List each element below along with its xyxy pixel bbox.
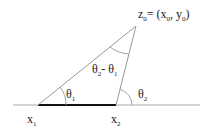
point1-label: x1 bbox=[27, 112, 37, 128]
apex-label: z0= (x0, y0) bbox=[138, 7, 190, 23]
angle1-label: θ1 bbox=[66, 87, 76, 103]
side-x1-z0 bbox=[38, 26, 136, 105]
side-x2-z0 bbox=[116, 26, 136, 105]
angle-arc-theta2 bbox=[120, 90, 132, 106]
point2-label: x2 bbox=[111, 112, 121, 128]
apex-angle-label: θ2- θ1 bbox=[92, 62, 118, 78]
triangle-diagram: z0= (x0, y0) θ2- θ1 θ1 θ2 x1 x2 bbox=[0, 0, 211, 133]
angle-arc-apex bbox=[110, 47, 129, 54]
angle2-label: θ2 bbox=[138, 87, 148, 103]
